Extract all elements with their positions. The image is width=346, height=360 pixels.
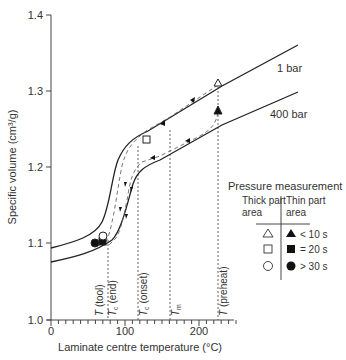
y-tick-label: 1.2 [28, 161, 43, 173]
y-tick-label: 1.1 [28, 237, 43, 249]
y-tick-label: 1.0 [28, 314, 43, 326]
open-triangle-marker [214, 79, 222, 86]
t-preheat-label: T (preheat) [218, 267, 229, 316]
legend-title: Pressure measurement [228, 180, 342, 192]
legend-open-square-icon [264, 245, 272, 253]
x-axis-label: Laminate centre temperature (°C) [58, 341, 222, 353]
t-tool-label: T (tool) [94, 284, 105, 316]
filled-circle-marker [91, 239, 99, 247]
legend: Pressure measurement Thick part area Thi… [228, 180, 342, 280]
pvt-chart: 1.4 1.3 1.2 1.1 1.0 0 100 200 Laminate c… [0, 0, 346, 360]
legend-row-label: > 30 s [300, 261, 328, 272]
label-1bar: 1 bar [277, 62, 302, 74]
open-square-marker [143, 136, 150, 143]
x-ticks [51, 320, 236, 326]
tm-label: Tm [170, 304, 182, 316]
legend-thick-header: area [242, 207, 262, 218]
legend-open-triangle-icon [263, 229, 273, 237]
arrow-icon [124, 182, 127, 187]
legend-thick-header: Thick part [242, 195, 286, 206]
legend-row-label: < 10 s [300, 229, 328, 240]
legend-open-circle-icon [264, 262, 273, 271]
y-tick-label: 1.3 [28, 85, 43, 97]
y-tick-label: 1.4 [28, 9, 43, 21]
arrow-icon [125, 214, 128, 219]
vertical-reference-lines [108, 83, 218, 320]
legend-row-label: = 20 s [300, 244, 328, 255]
data-markers [91, 79, 222, 247]
isobar-400bar [51, 92, 298, 262]
legend-thin-header: area [286, 207, 306, 218]
tc-onset-label: Tc (onset) [138, 272, 150, 316]
x-tick-label: 200 [190, 325, 208, 337]
label-400bar: 400 bar [270, 108, 308, 120]
filled-triangle-marker [214, 106, 222, 114]
x-tick-label: 100 [116, 325, 134, 337]
legend-thin-header: Thin part [286, 195, 326, 206]
legend-filled-triangle-icon [286, 229, 296, 237]
thin-part-path [108, 112, 218, 246]
open-circle-marker [99, 232, 107, 240]
legend-filled-circle-icon [287, 262, 296, 271]
y-axis-label: Specific volume (cm³/g) [6, 110, 18, 225]
legend-filled-square-icon [287, 245, 295, 253]
arrow-icon [119, 207, 122, 212]
path-arrows [119, 97, 195, 219]
tc-end-label: Tc (end) [107, 280, 119, 316]
x-tick-label: 0 [48, 325, 54, 337]
